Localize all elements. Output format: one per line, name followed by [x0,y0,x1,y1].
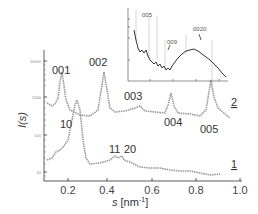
peak-label-20: 20 [124,143,136,155]
peak-label-10: 10 [60,118,72,130]
inset-plot: 005 009 0020 [128,8,228,90]
curve-label-1: 1 [231,158,237,170]
axes [44,50,242,181]
inset-label-0020: 0020 [193,26,207,32]
ytick-1000: 1000 [32,95,42,100]
ytick-10000: 10000 [30,59,42,64]
xtick-0.2: 0.2 [60,184,75,196]
xtick-0.6: 0.6 [144,184,159,196]
inset-label-005: 005 [142,12,153,18]
saxs-chart: 10000 1000 100 10 0.2 0.4 0.6 0.8 1.0 I(… [0,0,258,214]
xtick-0.4: 0.4 [99,184,114,196]
xtick-1.0: 1.0 [232,184,247,196]
ytick-10: 10 [37,170,42,175]
curve-1 [47,100,220,175]
peak-label-005: 005 [200,123,218,135]
inset-label-009: 009 [167,39,178,45]
xtick-0.8: 0.8 [188,184,203,196]
peak-label-002: 002 [89,56,107,68]
ytick-100: 100 [34,133,41,138]
peak-label-001: 001 [52,64,70,76]
peak-label-11: 11 [109,143,120,155]
curve-label-2: 2 [231,96,237,108]
y-axis-label: I(s) [16,112,28,128]
x-axis-label: s [nm-1] [112,196,148,208]
peak-label-004: 004 [164,116,182,128]
peak-label-003: 003 [124,90,142,102]
